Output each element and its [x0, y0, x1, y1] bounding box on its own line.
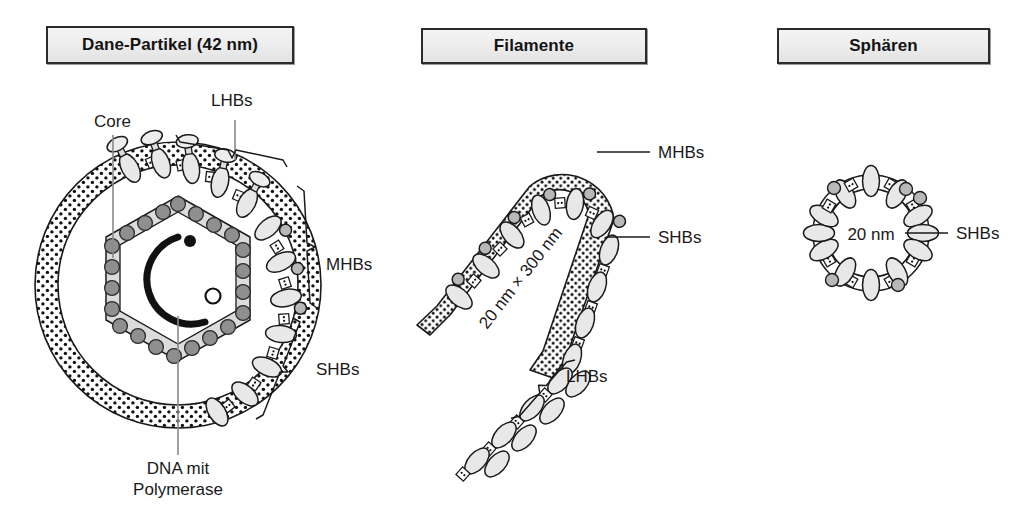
dane-particle-diagram: Core LHBs MHBs SHBs DNA mit Polymerase: [20, 91, 372, 499]
hbv-particle-figure: Core LHBs MHBs SHBs DNA mit Polymerase: [0, 0, 1024, 524]
sphere-diagram: 20 nm SHBs: [804, 166, 1000, 301]
dane-label-mhbs: MHBs: [326, 255, 372, 274]
dane-label-dna-line1: DNA mit: [147, 459, 210, 478]
dane-label-lhbs: LHBs: [211, 91, 253, 110]
sphere-dimension-label: 20 nm: [847, 225, 894, 244]
filament-surface-proteins: [440, 185, 628, 481]
dane-label-dna-line2: Polymerase: [133, 480, 223, 499]
filament-label-shbs: SHBs: [658, 228, 701, 247]
dane-label-core: Core: [94, 112, 131, 131]
polymerase-marker: [206, 289, 221, 304]
filament-diagram: 20 nm × 300 nm MHBs SHBs LHBs: [417, 143, 704, 481]
filament-label-lhbs: LHBs: [566, 367, 608, 386]
sphere-label-shbs: SHBs: [956, 224, 999, 243]
filament-label-mhbs: MHBs: [658, 143, 704, 162]
dna-terminus-dot: [184, 235, 196, 247]
dane-label-shbs: SHBs: [316, 360, 359, 379]
